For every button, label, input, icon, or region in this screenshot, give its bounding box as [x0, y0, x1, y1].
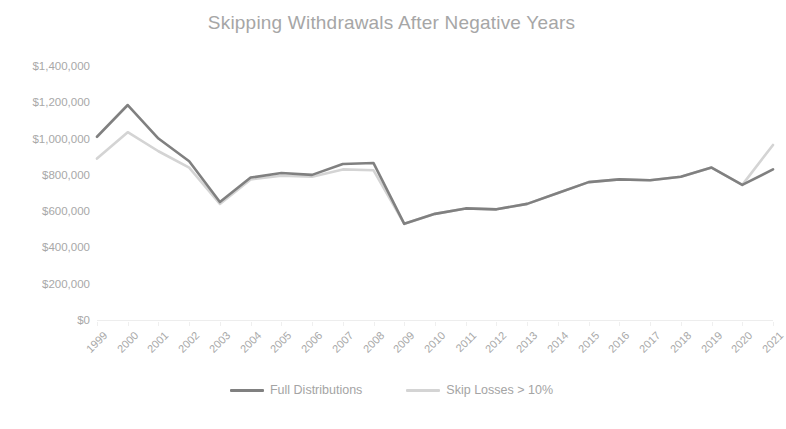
x-tick-label: 2020: [725, 329, 755, 359]
x-tick-label: 2005: [264, 329, 294, 359]
x-tick-label: 1999: [80, 329, 110, 359]
x-tick-label: 2011: [449, 329, 479, 359]
x-axis: 1999200020012002200320042005200620072008…: [97, 322, 773, 374]
x-tick: [128, 322, 129, 326]
x-tick: [374, 322, 375, 326]
x-tick: [773, 322, 774, 326]
plot-svg: [97, 66, 773, 320]
y-tick-label: $1,400,000: [0, 60, 90, 72]
x-tick-label: 2014: [541, 329, 571, 359]
legend-swatch-icon: [230, 389, 264, 392]
x-tick-label: 2013: [510, 329, 540, 359]
x-tick-label: 2012: [479, 329, 509, 359]
x-tick-label: 2010: [418, 329, 448, 359]
x-tick: [404, 322, 405, 326]
x-tick: [681, 322, 682, 326]
x-axis-line: [97, 320, 773, 321]
x-tick: [281, 322, 282, 326]
x-tick: [619, 322, 620, 326]
x-tick: [742, 322, 743, 326]
x-tick: [435, 322, 436, 326]
x-tick-label: 2001: [141, 329, 171, 359]
x-tick-label: 2004: [233, 329, 263, 359]
x-tick: [466, 322, 467, 326]
x-tick-label: 2007: [326, 329, 356, 359]
x-tick: [312, 322, 313, 326]
x-tick-label: 2002: [172, 329, 202, 359]
x-tick: [158, 322, 159, 326]
x-tick-label: 2006: [295, 329, 325, 359]
x-tick-label: 2016: [602, 329, 632, 359]
chart-legend: Full DistributionsSkip Losses > 10%: [0, 383, 783, 397]
x-tick: [650, 322, 651, 326]
y-tick-label: $1,000,000: [0, 133, 90, 145]
x-tick-label: 2000: [111, 329, 141, 359]
legend-item[interactable]: Full Distributions: [230, 383, 362, 397]
legend-label: Skip Losses > 10%: [446, 383, 553, 397]
y-tick-label: $0: [0, 314, 90, 326]
x-tick: [220, 322, 221, 326]
y-tick-label: $1,200,000: [0, 96, 90, 108]
series-line: [97, 105, 773, 224]
y-tick-label: $600,000: [0, 205, 90, 217]
y-tick-label: $800,000: [0, 169, 90, 181]
legend-label: Full Distributions: [270, 383, 362, 397]
x-tick: [251, 322, 252, 326]
plot-area: [97, 66, 773, 320]
y-tick-label: $400,000: [0, 241, 90, 253]
x-tick-label: 2003: [203, 329, 233, 359]
x-tick: [343, 322, 344, 326]
x-tick: [589, 322, 590, 326]
x-tick: [527, 322, 528, 326]
y-tick-label: $200,000: [0, 278, 90, 290]
x-tick: [496, 322, 497, 326]
x-tick-label: 2021: [756, 329, 786, 359]
x-tick-label: 2008: [356, 329, 386, 359]
x-tick: [97, 322, 98, 326]
x-tick: [558, 322, 559, 326]
x-tick-label: 2015: [571, 329, 601, 359]
chart-title: Skipping Withdrawals After Negative Year…: [0, 12, 783, 34]
y-axis: $0$200,000$400,000$600,000$800,000$1,000…: [0, 66, 90, 320]
x-tick-label: 2009: [387, 329, 417, 359]
x-tick-label: 2018: [664, 329, 694, 359]
legend-swatch-icon: [406, 389, 440, 392]
x-tick-label: 2019: [694, 329, 724, 359]
x-tick: [712, 322, 713, 326]
x-tick-label: 2017: [633, 329, 663, 359]
x-tick: [189, 322, 190, 326]
legend-item[interactable]: Skip Losses > 10%: [406, 383, 553, 397]
